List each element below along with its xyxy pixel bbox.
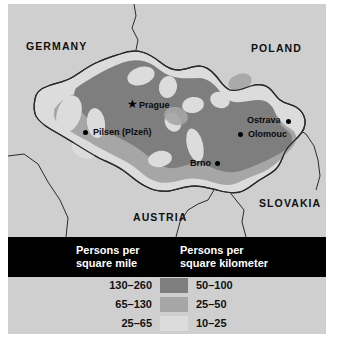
legend-value-km-high: 50–100 — [196, 279, 233, 291]
legend-header-miles: Persons per square mile — [76, 244, 140, 269]
legend-row-medium: 65–130 25–50 — [8, 297, 326, 314]
population-density-figure: GERMANY POLAND AUSTRIA SLOVAKIA ★ Prague… — [0, 0, 341, 351]
city-dot-brno — [215, 161, 220, 166]
legend-value-km-medium: 25–50 — [196, 298, 227, 310]
legend-value-mile-low: 25–65 — [68, 317, 152, 329]
map-pane: GERMANY POLAND AUSTRIA SLOVAKIA ★ Prague… — [8, 4, 326, 237]
legend-swatch-low — [160, 316, 188, 331]
city-label-olomouc: Olomouc — [248, 129, 287, 139]
legend-swatch-medium — [160, 297, 188, 312]
legend-value-mile-medium: 65–130 — [68, 298, 152, 310]
legend-swatch-high — [160, 278, 188, 293]
legend-rows: 130–260 50–100 65–130 25–50 25–65 10–25 — [8, 277, 326, 334]
legend-header-band: Persons per square mile Persons per squa… — [8, 237, 326, 277]
city-dot-olomouc — [238, 132, 243, 137]
legend-row-high: 130–260 50–100 — [8, 278, 326, 295]
country-label-germany: GERMANY — [26, 40, 87, 52]
figure-frame: GERMANY POLAND AUSTRIA SLOVAKIA ★ Prague… — [8, 4, 326, 334]
city-label-ostrava: Ostrava — [247, 115, 281, 125]
legend-value-km-low: 10–25 — [196, 317, 227, 329]
city-dot-pilsen — [83, 130, 88, 135]
legend-value-mile-high: 130–260 — [68, 279, 152, 291]
country-label-poland: POLAND — [251, 42, 302, 54]
city-label-prague: Prague — [139, 100, 170, 110]
country-label-austria: AUSTRIA — [133, 211, 187, 223]
country-label-slovakia: SLOVAKIA — [259, 197, 321, 209]
city-label-pilsen: Pilsen (Plzeň) — [93, 127, 152, 137]
city-label-brno: Brno — [190, 158, 211, 168]
city-dot-ostrava — [286, 119, 291, 124]
legend-row-low: 25–65 10–25 — [8, 316, 326, 333]
legend-header-kilometers: Persons per square kilometer — [180, 244, 268, 269]
capital-star-icon: ★ — [127, 99, 138, 110]
